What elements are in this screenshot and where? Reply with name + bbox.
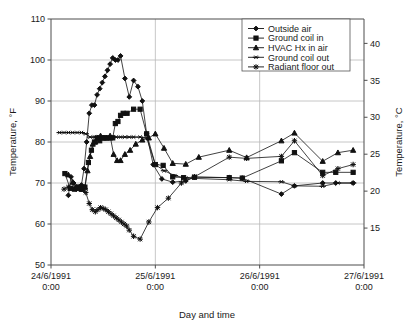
data-point-square	[125, 111, 129, 115]
legend-label-0: Outside air	[268, 24, 312, 34]
legend-label-2: HVAC Hx in air	[268, 43, 328, 53]
x-axis-title: Day and time	[179, 309, 235, 320]
y-axis-left-title: Temperature, °F	[7, 108, 18, 176]
y-axis-right-tick-label: 15	[370, 223, 380, 233]
data-point-square	[116, 119, 120, 123]
x-axis-tick-label-date: 24/6/1991	[31, 271, 71, 281]
data-point-square	[131, 107, 135, 111]
data-point-square	[292, 151, 296, 155]
y-axis-tick-label: 110	[31, 14, 45, 24]
data-point-square	[334, 170, 338, 174]
data-point-square	[351, 170, 355, 174]
chart-page: 5060708090100110 152025303540 24/6/19910…	[0, 0, 415, 324]
x-axis-tick-label-date: 27/6/1991	[344, 271, 384, 281]
y-axis-tick-label: 100	[30, 55, 45, 65]
data-point-square	[254, 36, 258, 40]
x-axis-tick-label-time: 0:00	[251, 282, 269, 292]
y-axis-right-tick-label: 40	[370, 39, 380, 49]
legend-label-3: Ground coil out	[268, 53, 330, 63]
chart-legend[interactable]: Outside airGround coil inHVAC Hx in airG…	[242, 19, 350, 72]
data-point-square	[138, 107, 142, 111]
y-axis-tick-label: 80	[35, 137, 45, 147]
x-axis-tick-label-time: 0:00	[42, 282, 60, 292]
y-axis-right-title: Temperature, °C	[393, 107, 404, 176]
x-axis-tick-label-time: 0:00	[147, 282, 165, 292]
y-axis-right-tick-label: 20	[370, 186, 380, 196]
y-axis-tick-label: 90	[35, 96, 45, 106]
legend-label-1: Ground coil in	[268, 33, 324, 43]
y-axis-right-tick-label: 30	[370, 112, 380, 122]
x-axis-tick-label-time: 0:00	[355, 282, 373, 292]
y-axis-right-tick-label: 25	[370, 149, 380, 159]
legend-label-4: Radiant floor out	[268, 62, 335, 72]
y-axis-right-tick-label: 35	[370, 76, 380, 86]
data-point-square	[240, 176, 244, 180]
x-axis-tick-label-date: 25/6/1991	[135, 271, 175, 281]
y-axis-tick-label: 60	[35, 219, 45, 229]
data-point-square	[145, 132, 149, 136]
data-point-square	[279, 159, 283, 163]
data-point-square	[161, 163, 165, 167]
y-axis-tick-label: 50	[35, 260, 45, 270]
y-axis-tick-label: 70	[35, 178, 45, 188]
x-axis-tick-label-date: 26/6/1991	[240, 271, 280, 281]
temperature-line-chart: 5060708090100110 152025303540 24/6/19910…	[0, 0, 415, 324]
